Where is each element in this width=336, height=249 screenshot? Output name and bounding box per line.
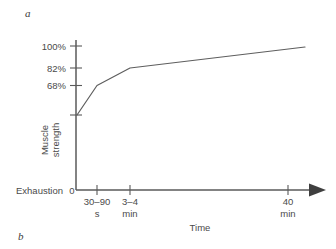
y-tick-label-100: 100% [42,41,67,52]
y-tick-label-68: 68% [47,80,67,91]
y-axis-title-line1: Muscle [39,125,50,155]
x-tick-unit-seconds: s [95,208,100,219]
origin-label: 0 [69,185,74,196]
panel-letter-b: b [18,230,24,242]
exhaustion-label: Exhaustion [16,185,63,196]
x-axis-arrow-icon [309,184,326,197]
x-tick-unit-minutes-2: min [280,208,295,219]
x-tick-unit-minutes-1: min [122,208,137,219]
x-axis-title: Time [190,222,211,233]
muscle-strength-recovery-chart: 100% 82% 68% Muscle strength Exhaustion … [0,0,336,249]
figure-root: a 100% 82% 68% Muscle strength Exhaustio… [0,0,336,249]
x-tick-label-40: 40 [283,196,294,207]
x-tick-label-3-4: 3–4 [122,196,138,207]
y-tick-label-82: 82% [47,63,67,74]
y-axis-title-line2: strength [50,123,61,157]
x-tick-label-30-90: 30–90 [84,196,110,207]
muscle-strength-curve [77,47,305,115]
